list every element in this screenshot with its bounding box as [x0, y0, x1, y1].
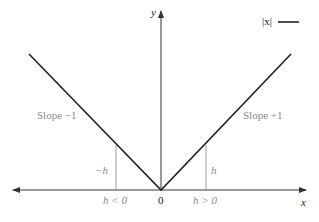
slope-left-label: Slope −1 [37, 109, 77, 121]
h-lt-label: h < 0 [103, 194, 127, 206]
abs-curve [29, 54, 291, 190]
h-gt-label: h > 0 [193, 194, 217, 206]
y-axis-label: y [151, 6, 156, 18]
pos-h-label: h [211, 164, 217, 176]
legend-label: |x| [262, 15, 272, 27]
neg-h-label: −h [95, 164, 108, 176]
origin-label: 0 [158, 194, 164, 206]
x-axis-label: x [301, 196, 306, 208]
slope-right-label: Slope +1 [243, 109, 283, 121]
